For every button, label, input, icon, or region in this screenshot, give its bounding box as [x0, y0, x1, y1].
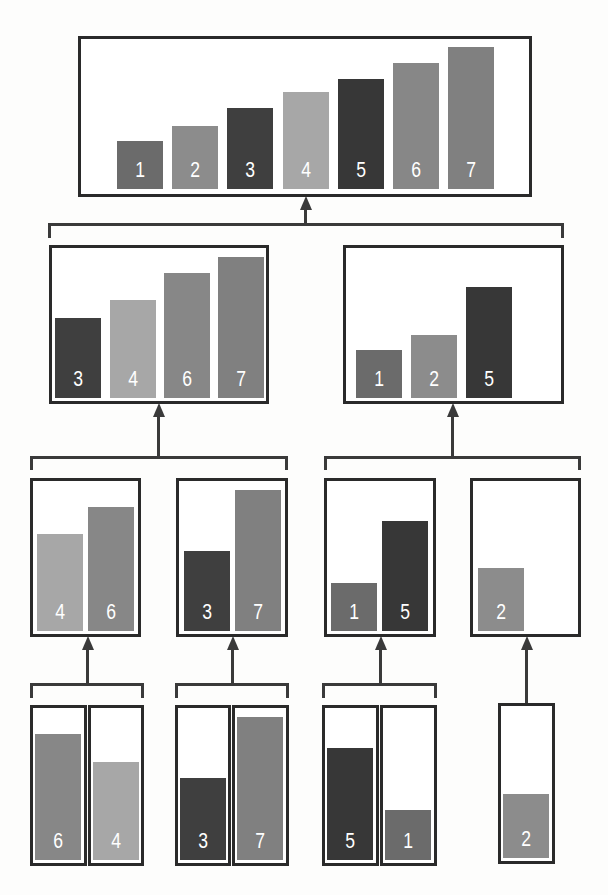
value-bar-4: 4 [283, 92, 329, 189]
bar-value-label: 7 [255, 830, 265, 852]
value-bar-3: 3 [184, 551, 230, 631]
arrow-up-icon [521, 636, 533, 650]
value-bar-2: 2 [172, 126, 218, 189]
bar-value-label: 3 [73, 368, 83, 390]
value-bar-7: 7 [237, 717, 283, 860]
bracket-left-leg [324, 456, 327, 470]
bar-value-label: 2 [190, 159, 200, 181]
value-bar-6: 6 [164, 273, 210, 398]
merge-stem-line [525, 649, 528, 703]
bar-value-label: 6 [53, 830, 63, 852]
bracket-right-leg [434, 683, 437, 698]
value-bar-7: 7 [218, 257, 264, 398]
value-bar-1: 1 [356, 350, 402, 398]
merge-stem-line [451, 416, 454, 456]
value-bar-6: 6 [393, 63, 439, 189]
bar-value-label: 2 [496, 601, 506, 623]
merge-stem-line [86, 649, 89, 683]
bar-value-label: 3 [245, 159, 255, 181]
merge-sort-diagram: 1234567346712546371526437512 [0, 0, 608, 895]
value-bar-7: 7 [235, 490, 281, 631]
bar-value-label: 7 [253, 601, 263, 623]
bar-value-label: 5 [400, 601, 410, 623]
merge-stem-line [304, 209, 307, 223]
bar-value-label: 7 [466, 159, 476, 181]
bar-value-label: 4 [55, 601, 65, 623]
value-bar-6: 6 [88, 507, 134, 631]
bar-value-label: 3 [198, 830, 208, 852]
value-bar-1: 1 [331, 583, 377, 631]
value-bar-3: 3 [180, 778, 226, 860]
bar-value-label: 3 [202, 601, 212, 623]
bar-value-label: 5 [345, 830, 355, 852]
arrow-up-icon [447, 403, 459, 417]
value-bar-7: 7 [448, 47, 494, 189]
value-bar-4: 4 [93, 762, 139, 860]
value-bar-1: 1 [117, 141, 163, 189]
merge-stem-line [379, 649, 382, 683]
arrow-up-icon [300, 196, 312, 210]
bar-value-label: 7 [236, 368, 246, 390]
value-bar-5: 5 [338, 79, 384, 189]
bracket-left-leg [322, 683, 325, 698]
bar-value-label: 5 [356, 159, 366, 181]
bar-value-label: 1 [349, 601, 359, 623]
bracket-left-leg [48, 223, 51, 238]
bracket-top-line [30, 456, 288, 459]
bracket-right-leg [561, 223, 564, 238]
bar-value-label: 1 [374, 368, 384, 390]
merge-stem-line [157, 416, 160, 456]
value-bar-2: 2 [478, 568, 524, 631]
value-bar-5: 5 [466, 287, 512, 398]
value-bar-2: 2 [411, 335, 457, 398]
value-bar-1: 1 [385, 810, 431, 860]
bracket-left-leg [30, 456, 33, 470]
bracket-right-leg [285, 456, 288, 470]
value-bar-4: 4 [37, 534, 83, 631]
bracket-top-line [322, 683, 437, 686]
value-bar-2: 2 [503, 794, 549, 858]
bar-value-label: 1 [403, 830, 413, 852]
value-bar-5: 5 [327, 748, 373, 860]
arrow-up-icon [153, 403, 165, 417]
bar-value-label: 4 [301, 159, 311, 181]
arrow-up-icon [82, 636, 94, 650]
arrow-up-icon [375, 636, 387, 650]
bar-value-label: 6 [411, 159, 421, 181]
bracket-right-leg [286, 683, 289, 698]
bar-value-label: 2 [429, 368, 439, 390]
value-bar-3: 3 [55, 318, 101, 398]
bracket-right-leg [578, 456, 581, 470]
bracket-left-leg [30, 683, 33, 698]
value-bar-5: 5 [382, 521, 428, 631]
bracket-top-line [48, 223, 564, 226]
bracket-right-leg [141, 683, 144, 698]
value-bar-4: 4 [110, 300, 156, 398]
bracket-top-line [30, 683, 144, 686]
bar-value-label: 2 [521, 828, 531, 850]
value-bar-6: 6 [35, 734, 81, 860]
bar-value-label: 6 [182, 368, 192, 390]
bar-value-label: 4 [128, 368, 138, 390]
bracket-top-line [324, 456, 581, 459]
bar-value-label: 4 [111, 830, 121, 852]
bar-value-label: 1 [135, 159, 145, 181]
merge-stem-line [231, 649, 234, 683]
bar-value-label: 6 [106, 601, 116, 623]
arrow-up-icon [227, 636, 239, 650]
bracket-top-line [175, 683, 289, 686]
value-bar-3: 3 [227, 108, 273, 189]
bar-value-label: 5 [484, 368, 494, 390]
bracket-left-leg [175, 683, 178, 698]
